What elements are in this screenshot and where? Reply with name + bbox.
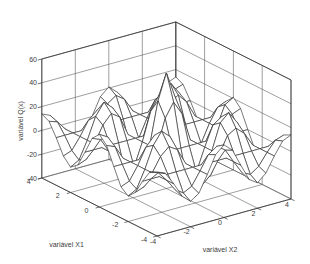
grid-line xyxy=(38,59,42,60)
grid-line xyxy=(67,193,71,194)
grid-line xyxy=(191,227,195,229)
grid-line xyxy=(291,199,295,201)
axis-label-x1: variável X1 xyxy=(49,241,84,248)
x1-tick-label: -4 xyxy=(141,236,147,243)
x2-tick-label: -2 xyxy=(183,228,189,235)
axis-label-x2: variável X2 xyxy=(203,246,238,253)
grid-line xyxy=(38,154,42,155)
x1-tick-label: -2 xyxy=(112,221,118,228)
z-tick-label: 60 xyxy=(29,56,37,63)
x1-tick-label: 2 xyxy=(56,192,60,199)
z-tick-label: -20 xyxy=(27,151,37,158)
x2-tick-label: 4 xyxy=(285,201,289,208)
grid-line xyxy=(96,207,100,208)
grid-line xyxy=(38,107,42,108)
mesh-face xyxy=(275,135,291,141)
grid-line xyxy=(157,236,161,238)
grid-line xyxy=(224,217,228,219)
grid-line xyxy=(38,178,42,179)
grid-line xyxy=(38,83,42,84)
axis-label-q: variável Q(x) xyxy=(17,101,25,141)
x2-tick-label: 2 xyxy=(252,210,256,217)
grid-line xyxy=(38,130,42,131)
x1-tick-label: 4 xyxy=(27,178,31,185)
z-tick-label: 20 xyxy=(29,103,37,110)
grid-line xyxy=(124,222,128,223)
surface-plot-canvas: 60 40 20 0 -20 -40 4 2 0 -2 -4 -4 -2 0 2… xyxy=(0,0,310,264)
mesh-surface xyxy=(42,73,291,201)
z-tick-label: 0 xyxy=(33,127,37,134)
x1-tick-label: 0 xyxy=(84,207,88,214)
figure: 60 40 20 0 -20 -40 4 2 0 -2 -4 -4 -2 0 2… xyxy=(0,0,310,264)
x2-tick-label: -4 xyxy=(150,238,156,245)
mesh-face xyxy=(42,114,58,122)
z-tick-label: 40 xyxy=(29,79,37,86)
x2-tick-label: 0 xyxy=(218,219,222,226)
grid-line xyxy=(258,208,262,210)
